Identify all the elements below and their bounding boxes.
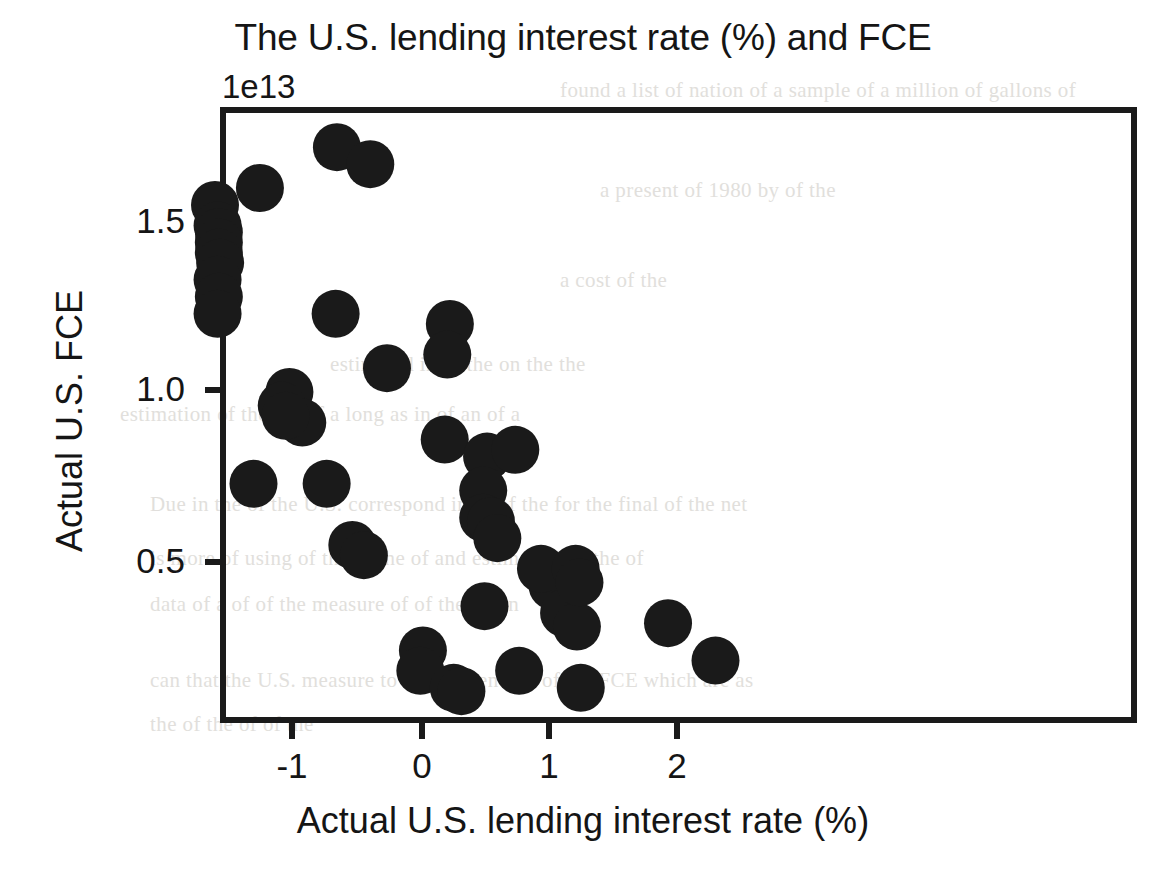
scatter-point (461, 582, 509, 630)
scatter-point (346, 140, 394, 188)
y-tick-mark (205, 219, 220, 225)
scatter-point (340, 531, 388, 579)
y-tick-label: 0.5 (65, 542, 185, 580)
scatter-point (423, 331, 471, 379)
y-tick-label: 1.0 (65, 370, 185, 408)
scatter-point (495, 647, 543, 695)
scatter-point (421, 416, 469, 464)
scatter-point (303, 460, 351, 508)
scatter-point (553, 603, 601, 651)
scatter-point (644, 599, 692, 647)
scatter-point (692, 637, 740, 685)
scatter-point (491, 426, 539, 474)
x-tick-mark (289, 723, 295, 739)
scatter-point (363, 344, 411, 392)
scatter-point (194, 290, 242, 338)
y-tick-mark (205, 559, 220, 565)
x-tick-label: 2 (637, 747, 717, 785)
y-tick-label: 1.5 (65, 202, 185, 240)
scatter-figure: The U.S. lending interest rate (%) and F… (0, 0, 1166, 882)
x-tick-mark (546, 723, 552, 739)
scatter-point (437, 667, 485, 715)
scatter-point (473, 514, 521, 562)
x-tick-label: -1 (252, 747, 332, 785)
scatter-point (236, 164, 284, 212)
scatter-point (557, 664, 605, 712)
y-tick-mark (205, 387, 220, 393)
scatter-point (230, 460, 278, 508)
x-tick-label: 1 (509, 747, 589, 785)
scatter-point (555, 558, 603, 606)
scatter-point (262, 392, 310, 440)
scatter-point (312, 290, 360, 338)
x-axis-label: Actual U.S. lending interest rate (%) (0, 800, 1166, 842)
x-tick-mark (419, 723, 425, 739)
x-tick-mark (674, 723, 680, 739)
x-tick-label: 0 (382, 747, 462, 785)
